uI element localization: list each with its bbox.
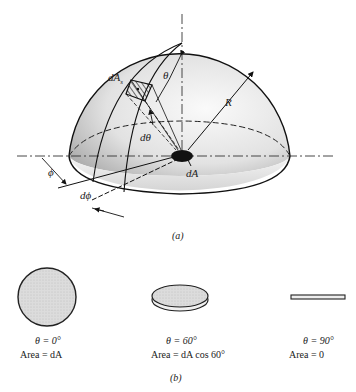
circle-theta-0 bbox=[18, 268, 76, 326]
caption-b: (b) bbox=[170, 372, 182, 383]
area-label-0: Area = dA bbox=[20, 349, 62, 360]
angle-label-60: θ = 60° bbox=[166, 335, 197, 346]
label-dA: dA bbox=[186, 167, 198, 179]
label-phi: ϕ bbox=[48, 166, 54, 178]
angle-label-0: θ = 0° bbox=[35, 335, 61, 346]
bar-theta-90 bbox=[291, 295, 345, 299]
label-theta: θ bbox=[163, 69, 168, 81]
dA-element bbox=[171, 150, 193, 162]
label-dphi: dϕ bbox=[80, 189, 91, 201]
label-dAs: dAs bbox=[108, 71, 123, 86]
disk-theta-60 bbox=[152, 285, 208, 311]
hemisphere-diagram bbox=[0, 0, 356, 392]
area-label-90: Area = 0 bbox=[289, 349, 324, 360]
label-dtheta: dθ bbox=[140, 131, 151, 143]
angle-label-90: θ = 90° bbox=[303, 335, 334, 346]
caption-a: (a) bbox=[172, 230, 184, 241]
area-label-60: Area = dA cos 60° bbox=[151, 349, 225, 360]
label-R: R bbox=[225, 96, 232, 108]
hemisphere bbox=[69, 54, 290, 194]
